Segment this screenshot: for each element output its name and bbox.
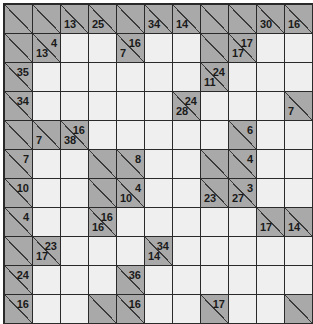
entry-cell[interactable] xyxy=(173,179,201,208)
entry-cell[interactable] xyxy=(173,208,201,237)
entry-cell[interactable] xyxy=(229,63,257,92)
entry-cell[interactable] xyxy=(33,150,61,179)
clue-cell: 2317 xyxy=(33,237,61,266)
entry-cell[interactable] xyxy=(201,237,229,266)
entry-cell[interactable] xyxy=(89,92,117,121)
entry-cell[interactable] xyxy=(285,179,313,208)
entry-cell[interactable] xyxy=(33,295,61,324)
down-clue: 14 xyxy=(176,19,188,30)
entry-cell[interactable] xyxy=(145,121,173,150)
entry-cell[interactable] xyxy=(229,208,257,237)
entry-cell[interactable] xyxy=(229,266,257,295)
entry-cell[interactable] xyxy=(173,63,201,92)
entry-cell[interactable] xyxy=(61,34,89,63)
entry-cell[interactable] xyxy=(61,237,89,266)
entry-cell[interactable] xyxy=(145,208,173,237)
entry-cell[interactable] xyxy=(33,92,61,121)
entry-cell[interactable] xyxy=(173,150,201,179)
entry-cell[interactable] xyxy=(201,208,229,237)
clue-cell: 17 xyxy=(257,208,285,237)
entry-cell[interactable] xyxy=(257,92,285,121)
entry-cell[interactable] xyxy=(145,266,173,295)
entry-cell[interactable] xyxy=(257,63,285,92)
entry-cell[interactable] xyxy=(257,121,285,150)
across-clue: 17 xyxy=(213,299,225,310)
clue-cell: 410 xyxy=(117,179,145,208)
blocked-cell xyxy=(117,5,145,34)
entry-cell[interactable] xyxy=(61,295,89,324)
entry-cell[interactable] xyxy=(257,295,285,324)
entry-cell[interactable] xyxy=(33,266,61,295)
blocked-cell xyxy=(5,237,33,266)
entry-cell[interactable] xyxy=(201,92,229,121)
clue-cell: 36 xyxy=(117,266,145,295)
kakuro-board: 1325341430164131671717352411342428771638… xyxy=(3,3,313,324)
entry-cell[interactable] xyxy=(285,63,313,92)
blocked-cell xyxy=(201,34,229,63)
entry-cell[interactable] xyxy=(145,295,173,324)
entry-cell[interactable] xyxy=(61,63,89,92)
entry-cell[interactable] xyxy=(117,237,145,266)
entry-cell[interactable] xyxy=(229,237,257,266)
entry-cell[interactable] xyxy=(173,295,201,324)
entry-cell[interactable] xyxy=(89,266,117,295)
across-clue: 4 xyxy=(23,212,29,223)
entry-cell[interactable] xyxy=(173,266,201,295)
entry-cell[interactable] xyxy=(117,63,145,92)
entry-cell[interactable] xyxy=(257,34,285,63)
entry-cell[interactable] xyxy=(89,63,117,92)
entry-cell[interactable] xyxy=(117,208,145,237)
entry-cell[interactable] xyxy=(89,237,117,266)
across-clue: 34 xyxy=(17,96,29,107)
clue-cell: 8 xyxy=(117,150,145,179)
entry-cell[interactable] xyxy=(145,34,173,63)
clue-cell: 34 xyxy=(145,5,173,34)
entry-cell[interactable] xyxy=(117,121,145,150)
entry-cell[interactable] xyxy=(229,295,257,324)
entry-cell[interactable] xyxy=(201,121,229,150)
entry-cell[interactable] xyxy=(285,237,313,266)
entry-cell[interactable] xyxy=(61,179,89,208)
entry-cell[interactable] xyxy=(33,208,61,237)
entry-cell[interactable] xyxy=(173,34,201,63)
clue-cell: 16 xyxy=(117,295,145,324)
entry-cell[interactable] xyxy=(257,150,285,179)
entry-cell[interactable] xyxy=(33,63,61,92)
entry-cell[interactable] xyxy=(145,92,173,121)
entry-cell[interactable] xyxy=(285,266,313,295)
clue-cell: 16 xyxy=(5,295,33,324)
entry-cell[interactable] xyxy=(257,179,285,208)
clue-cell: 4 xyxy=(229,150,257,179)
entry-cell[interactable] xyxy=(89,121,117,150)
clue-cell: 30 xyxy=(257,5,285,34)
entry-cell[interactable] xyxy=(61,208,89,237)
entry-cell[interactable] xyxy=(285,121,313,150)
entry-cell[interactable] xyxy=(145,150,173,179)
entry-cell[interactable] xyxy=(117,92,145,121)
entry-cell[interactable] xyxy=(285,150,313,179)
blocked-cell xyxy=(5,34,33,63)
entry-cell[interactable] xyxy=(61,150,89,179)
down-clue: 13 xyxy=(64,19,76,30)
entry-cell[interactable] xyxy=(173,237,201,266)
entry-cell[interactable] xyxy=(285,34,313,63)
entry-cell[interactable] xyxy=(61,92,89,121)
clue-cell: 14 xyxy=(173,5,201,34)
entry-cell[interactable] xyxy=(145,179,173,208)
clue-cell: 1616 xyxy=(89,208,117,237)
down-clue: 34 xyxy=(148,19,160,30)
clue-cell: 16 xyxy=(285,5,313,34)
down-clue: 17 xyxy=(36,251,48,262)
blocked-cell xyxy=(5,121,33,150)
entry-cell[interactable] xyxy=(145,63,173,92)
entry-cell[interactable] xyxy=(229,92,257,121)
blocked-cell xyxy=(89,179,117,208)
entry-cell[interactable] xyxy=(89,34,117,63)
entry-cell[interactable] xyxy=(61,266,89,295)
down-clue: 11 xyxy=(204,77,216,88)
entry-cell[interactable] xyxy=(257,237,285,266)
entry-cell[interactable] xyxy=(201,266,229,295)
entry-cell[interactable] xyxy=(33,179,61,208)
entry-cell[interactable] xyxy=(257,266,285,295)
entry-cell[interactable] xyxy=(173,121,201,150)
